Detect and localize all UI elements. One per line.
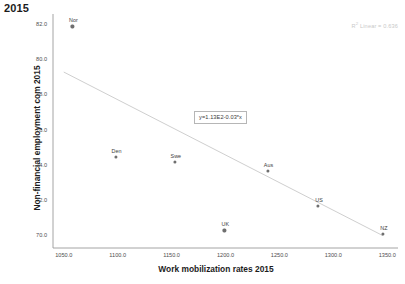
data-point-label: Den — [111, 148, 121, 154]
data-point[interactable] — [114, 155, 117, 158]
x-tick-label: 1050.0 — [41, 252, 87, 258]
data-point[interactable] — [71, 25, 74, 28]
y-tick-label: 80.0 — [7, 56, 47, 62]
data-point-label: NZ — [380, 225, 387, 231]
data-point[interactable] — [381, 232, 384, 235]
data-point-label: UK — [222, 221, 230, 227]
data-point[interactable] — [173, 160, 176, 163]
y-tick-label: 72.0 — [7, 197, 47, 203]
data-point[interactable] — [223, 229, 226, 232]
data-point[interactable] — [266, 169, 269, 172]
x-tick-label: 1200.0 — [203, 252, 249, 258]
data-point-label: US — [315, 197, 323, 203]
y-tick-label: 78.0 — [7, 91, 47, 97]
x-tick-label: 1250.0 — [256, 252, 302, 258]
data-point-label: Swe — [170, 153, 181, 159]
x-tick-label: 1350.0 — [364, 252, 405, 258]
x-tick-label: 1150.0 — [149, 252, 195, 258]
data-point-label: Aus — [264, 162, 274, 168]
y-tick-label: 74.0 — [7, 162, 47, 168]
equation-text: y=1.13E2-0.03*x — [199, 114, 242, 120]
data-point-label: Nor — [69, 17, 78, 23]
data-point[interactable] — [317, 204, 320, 207]
x-tick-label: 1100.0 — [95, 252, 141, 258]
scatter-chart: 2015 R2 Linear = 0.636 Non-financial emp… — [0, 0, 405, 284]
plot-area: NorDenSweUKAusUSNZ — [53, 14, 398, 248]
x-tick-label: 1300.0 — [310, 252, 356, 258]
y-tick-label: 70.0 — [7, 232, 47, 238]
equation-annotation: y=1.13E2-0.03*x — [194, 111, 247, 124]
y-tick-label: 76.0 — [7, 127, 47, 133]
y-tick-label: 82.0 — [7, 21, 47, 27]
